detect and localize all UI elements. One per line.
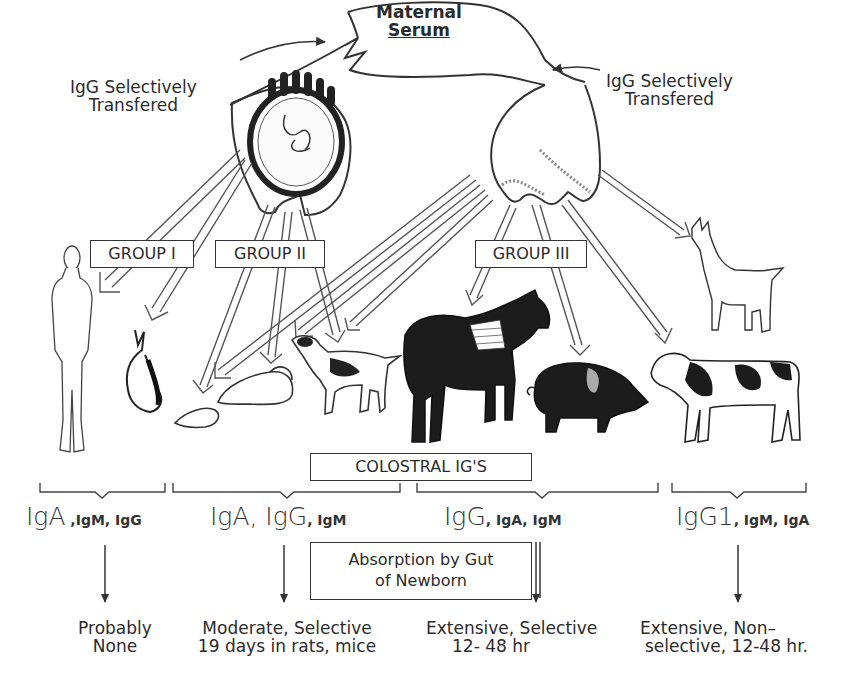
- ig-group-4-main: IgG1: [676, 502, 734, 531]
- ig-group-1-main: IgA: [26, 502, 65, 531]
- ig-group-2-minor: , IgM: [307, 512, 346, 528]
- ig-group-4: IgG1, IgM, IgA: [676, 503, 809, 530]
- placenta-icon: [232, 70, 351, 215]
- outcome-3-line2: 12- 48 hr: [426, 637, 597, 655]
- outcome-2-line2: 19 days in rats, mice: [182, 637, 392, 655]
- transfer-label-right-line2: Transfered: [606, 90, 733, 108]
- rabbit-icon: [127, 330, 161, 412]
- outcome-group-4: Extensive, Non– selective, 12-48 hr.: [640, 619, 808, 656]
- outcome-group-2: Moderate, Selective 19 days in rats, mic…: [182, 619, 392, 656]
- absorption-box: Absorption by Gut of Newborn: [310, 542, 532, 600]
- transfer-label-left: IgG Selectively Transfered: [70, 78, 197, 115]
- group-1-label: GROUP I: [90, 240, 194, 268]
- transfer-arrow-left: [240, 42, 325, 60]
- transfer-label-right: IgG Selectively Transfered: [606, 72, 733, 109]
- group-2-label: GROUP II: [215, 240, 325, 268]
- transfer-label-left-line2: Transfered: [70, 96, 197, 114]
- outcome-group-3: Extensive, Selective 12- 48 hr: [426, 619, 597, 656]
- mammary-gland-icon: [491, 85, 600, 204]
- horse-icon: [404, 290, 550, 442]
- cow-icon: [651, 353, 800, 442]
- human-icon: [52, 246, 92, 452]
- outcome-4-line1: Extensive, Non–: [640, 619, 808, 637]
- transfer-arrow-right: [553, 67, 600, 70]
- outcome-1-line1: Probably: [70, 619, 160, 637]
- mouse-icon: [175, 408, 218, 427]
- absorption-box-line2: of Newborn: [311, 570, 531, 591]
- absorption-box-line1: Absorption by Gut: [311, 549, 531, 570]
- transfer-label-left-line1: IgG Selectively: [70, 78, 197, 96]
- ig-group-1: IgA ,IgM, IgG: [26, 503, 142, 530]
- goat-icon: [692, 218, 783, 332]
- maternal-serum-line1: Maternal: [376, 3, 462, 21]
- ig-group-4-minor: , IgM, IgA: [734, 512, 810, 528]
- transfer-label-right-line1: IgG Selectively: [606, 72, 733, 90]
- group-3-label: GROUP III: [475, 240, 587, 268]
- ig-group-3-main: IgG: [444, 502, 486, 531]
- outcome-1-line2: None: [70, 637, 160, 655]
- ig-group-2-main: IgA, IgG: [210, 502, 307, 531]
- outcome-3-line1: Extensive, Selective: [426, 619, 597, 637]
- outcome-2-line1: Moderate, Selective: [182, 619, 392, 637]
- group-braces: [40, 483, 806, 498]
- dog-icon: [292, 336, 400, 414]
- maternal-serum-line2: Serum: [376, 21, 462, 39]
- colostral-igs-label: COLOSTRAL IG'S: [310, 453, 532, 481]
- outcome-group-1: Probably None: [70, 619, 160, 656]
- ig-group-1-minor: ,IgM, IgG: [65, 512, 141, 528]
- ig-group-2: IgA, IgG, IgM: [210, 503, 346, 530]
- maternal-serum-label: Maternal Serum: [376, 3, 462, 40]
- outcome-4-line2: selective, 12-48 hr.: [640, 637, 808, 655]
- pig-icon: [528, 363, 648, 432]
- ig-group-3: IgG, IgA, IgM: [444, 503, 562, 530]
- ig-group-3-minor: , IgA, IgM: [486, 512, 562, 528]
